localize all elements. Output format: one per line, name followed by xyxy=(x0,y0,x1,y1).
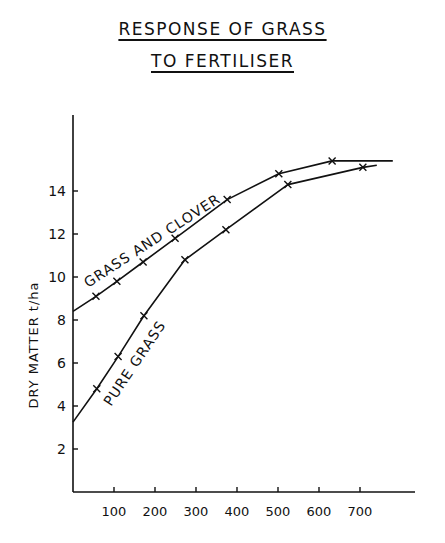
x-marker-icon xyxy=(140,312,147,319)
y-tick-label: 14 xyxy=(48,183,66,199)
x-tick-label: 600 xyxy=(307,504,332,519)
x-tick-label: 700 xyxy=(348,504,373,519)
x-tick-label: 400 xyxy=(225,504,250,519)
x-marker-icon xyxy=(113,278,120,285)
x-marker-icon xyxy=(115,353,122,360)
x-marker-icon xyxy=(140,258,147,265)
y-tick-label: 8 xyxy=(57,312,66,328)
y-tick-label: 6 xyxy=(57,355,66,371)
x-tick-label: 100 xyxy=(102,504,127,519)
y-tick-label: 12 xyxy=(48,226,66,242)
x-tick-label: 300 xyxy=(184,504,209,519)
x-tick-label: 500 xyxy=(266,504,291,519)
x-marker-icon xyxy=(93,385,100,392)
y-tick-label: 4 xyxy=(57,398,66,414)
series-labels: GRASS AND CLOVERPURE GRASS xyxy=(81,190,223,408)
x-marker-icon xyxy=(92,293,99,300)
series-line-0 xyxy=(73,161,393,312)
x-marker-icon xyxy=(181,256,188,263)
axes: 2468101214100200300400500600700 xyxy=(48,115,415,519)
label-grass-and-clover: GRASS AND CLOVER xyxy=(81,190,223,290)
y-tick-label: 2 xyxy=(57,441,66,457)
line-chart: 2468101214100200300400500600700 GRASS AN… xyxy=(0,0,445,543)
y-tick-label: 10 xyxy=(48,269,66,285)
x-marker-icon xyxy=(222,226,229,233)
x-tick-label: 200 xyxy=(143,504,168,519)
x-marker-icon xyxy=(224,196,231,203)
